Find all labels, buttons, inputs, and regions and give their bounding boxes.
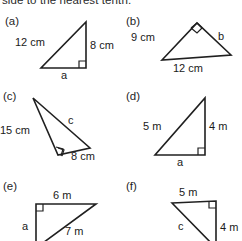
problem-d-vertical-label: 4 m: [209, 120, 227, 132]
problem-b: (b) 9 cm b 12 cm: [121, 12, 242, 80]
problem-b-right-label: b: [218, 30, 224, 42]
problem-b-left-label: 9 cm: [131, 31, 155, 43]
problem-d-base-label: a: [177, 156, 183, 168]
problem-a-base-label: a: [61, 69, 67, 81]
problem-d-hypotenuse-label: 5 m: [143, 120, 161, 132]
problem-f-hypotenuse-label: c: [178, 220, 184, 232]
problem-a-hypotenuse-label: 12 cm: [15, 36, 45, 48]
problem-b-base-label: 12 cm: [173, 62, 203, 74]
problem-d: (d) 5 m 4 m a: [121, 88, 242, 163]
problem-f: (f) 5 m 4 m c: [121, 178, 242, 241]
instruction-text: side to the nearest tenth.: [2, 0, 131, 7]
problem-a: (a) 12 cm 8 cm a: [0, 12, 121, 80]
problem-f-top-label: 5 m: [179, 186, 197, 198]
problem-c: (c) 15 cm c 8 cm: [0, 88, 121, 163]
problem-c-left-label: 15 cm: [0, 124, 30, 136]
problem-e-hypotenuse-label: 7 m: [65, 225, 83, 237]
problem-c-base-label: 8 cm: [71, 150, 95, 162]
problem-a-vertical-label: 8 cm: [90, 39, 114, 51]
problem-e-top-label: 6 m: [53, 189, 71, 201]
problem-e-figure: [0, 178, 121, 241]
problem-e-vertical-label: a: [22, 220, 28, 232]
problem-c-hypotenuse-label: c: [68, 114, 74, 126]
problem-f-vertical-label: 4 m: [220, 221, 238, 233]
problem-e: (e) 6 m a 7 m: [0, 178, 121, 241]
worksheet-page: side to the nearest tenth. (a) 12 cm 8 c…: [0, 0, 242, 241]
